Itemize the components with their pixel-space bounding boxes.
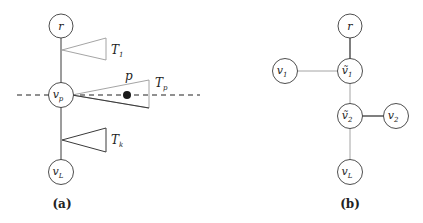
- subtree-tp-label: Tp: [155, 76, 168, 92]
- subtree-t1: [62, 38, 106, 60]
- panel-b: r ṽ1 v1 ṽ2 v2 vL (b): [273, 14, 409, 211]
- point-p: [123, 91, 131, 99]
- subtree-tk: [62, 128, 106, 152]
- subtree-tp: [72, 80, 149, 108]
- point-p-label: p: [125, 69, 133, 83]
- diagram-canvas: r vp vL T1 Tp Tk p (a) r ṽ1 v1 ṽ2 v2 vL …: [0, 0, 423, 223]
- subtree-tp-edge: [72, 95, 149, 108]
- node-r-b-label: r: [347, 20, 353, 33]
- caption-b: (b): [340, 197, 360, 211]
- panel-a: r vp vL T1 Tp Tk p (a): [17, 14, 200, 211]
- subtree-t1-label: T1: [111, 43, 123, 59]
- subtree-tk-label: Tk: [111, 133, 123, 149]
- caption-a: (a): [52, 197, 71, 211]
- node-r-label: r: [58, 20, 64, 33]
